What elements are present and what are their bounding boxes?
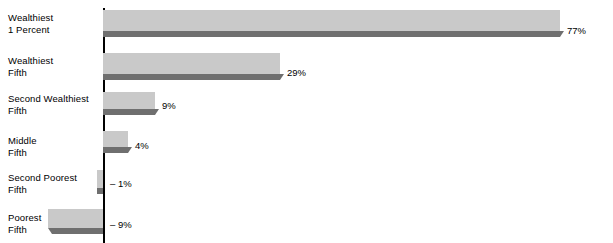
bar-cap-wealthiest-1-percent: [560, 31, 564, 37]
bar-face: [103, 10, 560, 31]
value-label-poorest-fifth: – 9%: [110, 219, 132, 231]
bar-cap-second-wealthiest-fifth: [155, 109, 159, 115]
bar-face: [97, 170, 103, 188]
category-label-line-2: Fifth: [8, 67, 53, 79]
category-label-poorest-fifth: Poorest Fifth: [8, 212, 41, 236]
bar-face: [103, 131, 128, 147]
value-label-second-wealthiest-fifth: 9%: [162, 100, 176, 112]
category-label-second-poorest-fifth: Second Poorest Fifth: [8, 172, 77, 196]
bar-second-poorest-fifth: [97, 170, 103, 188]
zero-axis-line: [103, 8, 105, 243]
bar-face: [103, 53, 280, 74]
category-label-line-2: Fifth: [8, 105, 89, 117]
bar-shadow-second-wealthiest-fifth: [103, 109, 155, 115]
category-label-second-wealthiest-fifth: Second Wealthiest Fifth: [8, 93, 89, 117]
bar-cap-wealthiest-fifth: [280, 74, 284, 80]
category-label-line-1: Wealthiest: [8, 55, 53, 67]
category-label-line-1: Second Wealthiest: [8, 93, 89, 105]
value-label-wealthiest-fifth: 29%: [287, 67, 306, 79]
bar-second-wealthiest-fifth: [103, 92, 155, 109]
bar-cap-poorest-fifth: [48, 228, 52, 234]
bar-cap-middle-fifth: [128, 147, 132, 153]
bar-shadow-middle-fifth: [103, 147, 128, 153]
category-label-line-1: Wealthiest: [8, 12, 53, 24]
category-label-line-2: Fifth: [8, 224, 41, 236]
category-label-line-2: Fifth: [8, 147, 37, 159]
bar-shadow-second-poorest-fifth: [97, 188, 103, 194]
bar-shadow-poorest-fifth: [52, 228, 103, 234]
category-label-middle-fifth: Middle Fifth: [8, 135, 37, 159]
value-label-second-poorest-fifth: – 1%: [110, 178, 132, 190]
bar-middle-fifth: [103, 131, 128, 147]
category-label-line-1: Poorest: [8, 212, 41, 224]
bar-wealthiest-fifth: [103, 53, 280, 74]
category-label-line-1: Second Poorest: [8, 172, 77, 184]
category-label-line-2: 1 Percent: [8, 24, 53, 36]
bar-poorest-fifth: [48, 209, 103, 228]
category-label-line-2: Fifth: [8, 184, 77, 196]
category-label-wealthiest-1-percent: Wealthiest 1 Percent: [8, 12, 53, 36]
category-label-wealthiest-fifth: Wealthiest Fifth: [8, 55, 53, 79]
bar-face: [48, 209, 103, 228]
bar-face: [103, 92, 155, 109]
bar-wealthiest-1-percent: [103, 10, 560, 31]
value-label-middle-fifth: 4%: [135, 140, 149, 152]
bar-chart: Wealthiest 1 Percent 77% Wealthiest Fift…: [0, 0, 613, 243]
bar-shadow-wealthiest-fifth: [103, 74, 280, 80]
bar-shadow-wealthiest-1-percent: [103, 31, 560, 37]
category-label-line-1: Middle: [8, 135, 37, 147]
value-label-wealthiest-1-percent: 77%: [567, 25, 586, 37]
